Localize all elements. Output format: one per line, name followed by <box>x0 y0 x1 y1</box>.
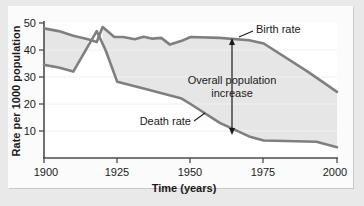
x-tick-1925: 1925 <box>105 166 129 178</box>
x-tick-1900: 1900 <box>34 166 58 178</box>
y-tick-20: 20 <box>24 98 36 110</box>
death-rate-label: Death rate <box>140 115 191 127</box>
x-tick-2000: 2000 <box>323 166 347 178</box>
population-rates-line-chart: 50 40 30 20 10 1900 1925 1950 1975 2000 … <box>0 0 364 206</box>
y-axis-tick-labels: 50 40 30 20 10 <box>24 17 36 137</box>
x-tick-1975: 1975 <box>251 166 275 178</box>
overall-increase-label-line1: Overall population <box>188 74 277 86</box>
y-tick-40: 40 <box>24 44 36 56</box>
overall-increase-label-line2: increase <box>211 87 253 99</box>
y-tick-30: 30 <box>24 71 36 83</box>
x-tick-1950: 1950 <box>178 166 202 178</box>
figure-container: 50 40 30 20 10 1900 1925 1950 1975 2000 … <box>0 0 364 206</box>
y-axis-title: Rate per 1000 population <box>10 25 22 156</box>
y-tick-10: 10 <box>24 125 36 137</box>
x-axis-title: Time (years) <box>152 182 217 194</box>
x-axis-tick-labels: 1900 1925 1950 1975 2000 <box>34 166 347 178</box>
birth-rate-label: Birth rate <box>256 23 301 35</box>
y-tick-50: 50 <box>24 17 36 29</box>
